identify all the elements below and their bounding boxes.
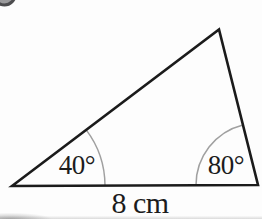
question-number-badge xyxy=(0,0,15,5)
figure-canvas: 40° 80° 8 cm xyxy=(0,0,262,219)
base-length-label: 8 cm xyxy=(100,188,180,218)
angle-label-left: 40° xyxy=(54,152,100,179)
angle-label-right: 80° xyxy=(203,152,249,179)
